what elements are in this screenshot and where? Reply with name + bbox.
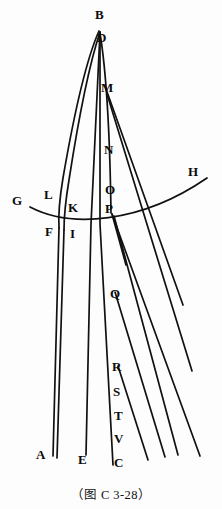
vertex-label-g: G <box>12 194 22 207</box>
vertex-label-i: I <box>70 227 75 240</box>
geometry-diagram <box>0 0 222 509</box>
ray-m-to-right-2 <box>107 94 192 371</box>
vertex-label-q: Q <box>110 287 120 300</box>
ray-m-to-right-1 <box>106 89 183 305</box>
vertex-label-b: B <box>95 8 104 21</box>
vertex-label-r: R <box>112 360 121 373</box>
vertex-label-f: F <box>45 225 53 238</box>
vertex-label-e: E <box>78 453 87 466</box>
diagram-stroke-group <box>30 31 207 465</box>
axis-line-b-to-e <box>86 32 100 455</box>
vertex-label-n: N <box>104 143 113 156</box>
ray-p-to-right-3 <box>112 214 200 456</box>
vertex-label-k: K <box>68 201 78 214</box>
figure-caption: （图 C 3-28） <box>0 484 222 503</box>
vertex-label-m: M <box>101 81 113 94</box>
vertex-label-p: P <box>105 202 113 215</box>
horizon-curve-g-to-h <box>30 178 207 219</box>
vertex-label-s: S <box>113 385 120 398</box>
ray-p-to-right-4 <box>114 216 178 455</box>
vertex-label-c: C <box>114 456 123 469</box>
geometry-figure-panel: BDMNOPQRSTVCEAGHLKFI （图 C 3-28） <box>0 0 222 509</box>
vertex-label-t: T <box>114 409 123 422</box>
vertex-label-o: O <box>105 183 115 196</box>
vertex-label-l: L <box>44 188 53 201</box>
vertex-label-h: H <box>188 165 198 178</box>
short-line-q-spur <box>112 214 126 265</box>
vertex-label-v: V <box>114 432 123 445</box>
vertex-label-a: A <box>36 448 45 461</box>
vertex-label-d: D <box>97 31 106 44</box>
